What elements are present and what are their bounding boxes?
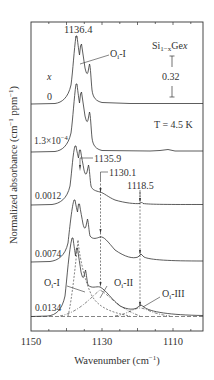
arrow-1130-b (100, 229, 102, 234)
series-label-1: 1.3×10−4 (34, 134, 68, 146)
scale-value: 0.32 (162, 71, 180, 82)
temperature-label: T = 4.5 K (154, 119, 194, 130)
oi-II-label: Oi-II (114, 277, 133, 290)
oi-I-label: Oi-I (44, 277, 60, 290)
oi-I-label-top: Oi-I (110, 48, 126, 61)
bottom-ticks (49, 328, 191, 331)
x-axis-label: Wavenumber (cm−1) (74, 354, 160, 367)
peak-label-1135: 1135.9 (94, 153, 121, 164)
absorbance-chart: 1136.4 Oi-I Si1−xGex 0.32 T = 4.5 K x 0 … (0, 0, 214, 380)
arrow-1130-c (100, 282, 102, 287)
series-label-4: 0.0134 (35, 303, 61, 313)
sample-label: Si1−xGex (152, 40, 188, 53)
x-tick-1130: 1130 (92, 336, 113, 347)
peak-label-1130: 1130.1 (109, 167, 136, 178)
legend-title: x (46, 71, 52, 82)
y-axis-label: Normalized absorbance (cm−1 ppm−1) (7, 85, 20, 244)
x-tick-1150: 1150 (21, 336, 42, 347)
x-tick-1110: 1110 (163, 336, 183, 347)
peak-label-1136: 1136.4 (64, 24, 93, 35)
series-label-3: 0.0074 (35, 249, 61, 259)
series-label-0: 0 (47, 91, 52, 102)
peak-label-1118: 1118.5 (127, 180, 154, 191)
series-label-2: 0.0012 (35, 191, 61, 201)
oi-III-label: Oi-III (162, 288, 185, 301)
